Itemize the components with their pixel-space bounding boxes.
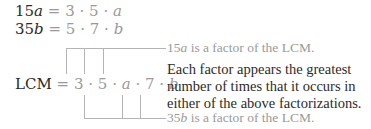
lcm-label: LCM — [15, 75, 52, 93]
equals-sign: = — [48, 20, 61, 38]
factor: 7 — [145, 75, 155, 93]
equals-sign: = — [57, 75, 70, 93]
equation-35b: 35b = 5 · 7 · b — [15, 20, 123, 38]
dot: · — [112, 75, 117, 93]
dot: · — [88, 75, 93, 93]
factor: 5 — [89, 2, 99, 20]
bottom-bracket-tick-b — [140, 95, 141, 118]
factor: a — [122, 75, 131, 93]
factor: b — [114, 20, 124, 38]
dot: · — [135, 75, 140, 93]
dot: · — [104, 20, 109, 38]
factor: 3 — [74, 75, 84, 93]
annotation-text: is a factor of the LCM. — [187, 40, 314, 55]
lhs-number: 35 — [15, 20, 34, 38]
bottom-bracket-tick-5 — [84, 95, 85, 118]
annotation-bottom: 35b is a factor of the LCM. — [167, 110, 314, 126]
lhs-variable: b — [34, 20, 44, 38]
factor: 3 — [65, 2, 75, 20]
equals-sign: = — [48, 2, 61, 20]
bottom-bracket-horizontal — [84, 118, 166, 119]
factor: 5 — [66, 20, 76, 38]
annotation-top: 15a is a factor of the LCM. — [167, 40, 314, 56]
top-bracket-tick-3 — [66, 48, 67, 74]
top-bracket-tick-5 — [84, 48, 85, 74]
top-bracket-horizontal — [66, 48, 166, 49]
annotation-num: 15 — [167, 40, 181, 55]
annotation-middle: Each factor appears the greatest number … — [167, 61, 371, 112]
factor: 7 — [90, 20, 100, 38]
lhs-number: 15 — [15, 2, 34, 20]
bottom-bracket-tick-7 — [122, 95, 123, 118]
top-bracket-tick-a — [103, 48, 104, 74]
dot: · — [103, 2, 108, 20]
dot: · — [80, 20, 85, 38]
annotation-text: is a factor of the LCM. — [187, 110, 314, 125]
equation-15a: 15a = 3 · 5 · a — [15, 2, 122, 20]
factor: 5 — [98, 75, 108, 93]
annotation-num: 35 — [167, 110, 181, 125]
dot: · — [159, 75, 164, 93]
factor: a — [113, 2, 122, 20]
dot: · — [80, 2, 85, 20]
lhs-variable: a — [34, 2, 43, 20]
lcm-equation: LCM = 3 · 5 · a · 7 · b — [15, 75, 179, 93]
